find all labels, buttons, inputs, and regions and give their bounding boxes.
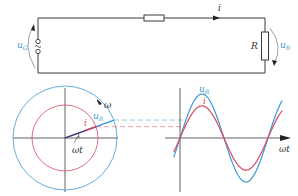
angle-leader: [74, 136, 78, 143]
current-label: i: [218, 3, 221, 13]
x-axis-arrow-icon: [280, 135, 291, 141]
load-voltage-arc: [270, 28, 278, 64]
current-arrow-icon: [213, 16, 220, 21]
angle-label: ωt: [72, 145, 83, 155]
series-resistor-symbol: [144, 15, 164, 21]
phasor-current-label: i: [84, 118, 87, 128]
source-terminal-top: [36, 39, 40, 43]
load-voltage-arrow-icon: [272, 60, 277, 66]
source-terminal-bottom: [36, 49, 40, 53]
waveform-chart: ωt uR i: [165, 84, 291, 192]
wave-voltage-label: uR: [199, 84, 210, 95]
source-voltage-label: uG: [17, 40, 28, 51]
current-phasor-tip: [86, 127, 96, 131]
x-axis-label: ωt: [279, 144, 290, 154]
source-voltage-arrow-icon: [31, 24, 35, 31]
resistor-label: R: [250, 41, 258, 51]
diagram-canvas: uG i R uR ω ωt uR i ωt uR i: [0, 0, 298, 196]
ac-source-icon: [35, 46, 41, 48]
source-voltage-arc: [28, 26, 35, 68]
phasor-voltage-label: uR: [93, 111, 104, 122]
wave-current-label: i: [203, 96, 206, 106]
circuit-wire: [38, 18, 265, 73]
phasor-diagram: ω ωt uR i: [13, 86, 186, 192]
angular-velocity-label: ω: [104, 100, 112, 110]
load-resistor-symbol: [262, 32, 269, 60]
load-voltage-label: uR: [280, 40, 291, 51]
angle-arc: [78, 133, 79, 138]
circuit: uG i R uR: [17, 3, 291, 73]
